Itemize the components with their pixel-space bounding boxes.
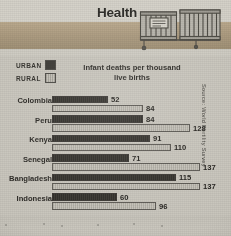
value-rural: 110 [174, 143, 186, 152]
legend-label-rural: RURAL [16, 75, 41, 82]
bar-urban [52, 115, 143, 123]
value-urban: 115 [179, 173, 191, 182]
bar-group: 115 137 [52, 173, 231, 193]
category-label: Indonesia [0, 194, 52, 203]
legend-swatch-urban [45, 60, 56, 70]
value-urban: 91 [153, 134, 161, 143]
category-label: Senegal [0, 155, 52, 164]
bar-rural [52, 202, 156, 210]
scan-artifacts [2, 222, 202, 228]
value-urban: 52 [111, 95, 119, 104]
bar-rural [52, 163, 200, 171]
legend-item-rural: RURAL [16, 73, 56, 83]
chart-row: Peru 84 128 [0, 115, 231, 135]
bar-rural [52, 124, 190, 132]
bar-urban [52, 96, 108, 104]
category-label: Bangladesh [0, 174, 52, 183]
value-urban: 84 [146, 115, 154, 124]
chart-row: Senegal 71 137 [0, 154, 231, 174]
legend-label-urban: URBAN [16, 62, 41, 69]
value-urban: 71 [132, 154, 140, 163]
source-credit: Source: World Fertility Survey [201, 84, 207, 167]
bar-rural [52, 183, 200, 191]
page-title: Health [97, 5, 137, 20]
bar-urban [52, 135, 150, 143]
chart-row: Kenya 91 110 [0, 134, 231, 154]
chart-row: Colombia 52 84 [0, 95, 231, 115]
value-rural: 137 [203, 182, 216, 191]
legend-swatch-rural [45, 73, 56, 83]
legend-item-urban: URBAN [16, 60, 56, 70]
chart-row: Bangladesh 115 137 [0, 173, 231, 193]
hospital-crib-icon [138, 6, 226, 52]
value-rural: 96 [159, 202, 167, 211]
category-label: Kenya [0, 135, 52, 144]
legend: URBAN RURAL [16, 60, 56, 86]
category-label: Peru [0, 116, 52, 125]
bar-group: 60 96 [52, 193, 231, 213]
chart-title: Infant deaths per thousand live births [76, 63, 188, 82]
bar-urban [52, 174, 176, 182]
value-rural: 84 [146, 104, 154, 113]
bar-rural [52, 105, 143, 113]
bar-rural [52, 144, 171, 152]
infographic-page: Health [0, 0, 231, 236]
bar-chart: Colombia 52 84 Peru 84 128 Kenya 91 [0, 95, 231, 215]
chart-row: Indonesia 60 96 [0, 193, 231, 213]
bar-urban [52, 154, 129, 162]
category-label: Colombia [0, 96, 52, 105]
header-banner: Health [0, 0, 231, 56]
value-urban: 60 [120, 193, 128, 202]
bar-urban [52, 193, 117, 201]
